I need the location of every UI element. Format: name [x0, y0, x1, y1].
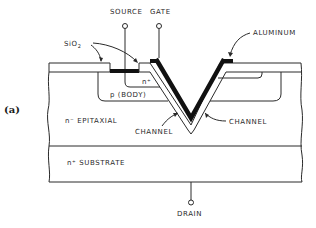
sio2-label: SiO2 [64, 40, 81, 49]
aluminum-label: ALUMINUM [253, 29, 296, 37]
n-plus-label: n⁺ [142, 78, 151, 86]
vmos-cross-section-diagram: (a) SOURCE GATE ALUMINUM SiO2 n⁺ p (BODY… [0, 0, 316, 228]
gate-aluminum-v [156, 59, 224, 118]
source-terminal [123, 24, 128, 73]
oxide-right [220, 63, 301, 72]
left-wavy-edge [48, 72, 50, 182]
sio2-arrow-2 [93, 43, 137, 62]
oxide-left [49, 63, 110, 72]
p-body-label: p (BODY) [110, 91, 146, 99]
channel-right-label: CHANNEL [229, 118, 267, 126]
arrowhead-icon [99, 57, 103, 62]
panel-label: (a) [4, 104, 20, 115]
n-epitaxial-label: n⁻ EPITAXIAL [65, 117, 117, 125]
source-metal [110, 69, 139, 73]
sio2-arrow-1 [91, 45, 101, 61]
right-wavy-edge [301, 63, 303, 182]
gate-label: GATE [150, 8, 171, 16]
oxide-mid [139, 63, 150, 72]
arrowhead-icon [205, 113, 209, 118]
source-label: SOURCE [110, 8, 143, 16]
drain-terminal [189, 182, 194, 205]
drain-label: DRAIN [177, 210, 202, 218]
aluminum-arrow [230, 33, 250, 55]
v-groove-oxide [150, 63, 220, 125]
arrowhead-icon [228, 52, 233, 57]
channel-left-label: CHANNEL [135, 128, 173, 136]
gate-terminal [157, 24, 162, 59]
channel-right-arrow [205, 113, 226, 121]
n-substrate-label: n⁺ SUBSTRATE [67, 159, 125, 167]
p-body-region-right [210, 72, 281, 101]
